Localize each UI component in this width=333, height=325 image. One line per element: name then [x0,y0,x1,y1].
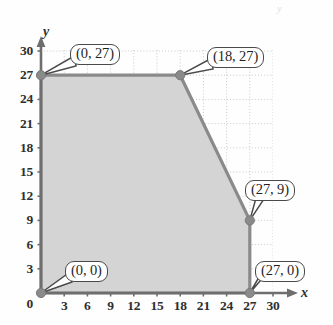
y-tick-label-21: 21 [0,116,33,132]
y-tick-label-0: 0 [0,296,33,312]
x-tick-label-6: 6 [84,298,91,314]
x-tick-label-9: 9 [107,298,114,314]
x-tick-label-24: 24 [220,298,233,314]
y-tick-label-27: 27 [0,67,33,83]
x-tick-label-27: 27 [243,298,256,314]
vertex-callout-27-9[interactable]: (27, 9) [245,180,295,201]
vertex-dot-27-0 [245,288,254,297]
x-tick-label-3: 3 [61,298,68,314]
y-tick-label-6: 6 [0,237,33,253]
x-tick-label-15: 15 [150,298,163,314]
x-axis-name: x [301,285,308,301]
x-tick-label-18: 18 [174,298,187,314]
y-tick-label-24: 24 [0,91,33,107]
y-tick-label-15: 15 [0,164,33,180]
y-tick-label-3: 3 [0,261,33,277]
vertex-dot-18-27 [176,71,185,80]
y-axis-name: y [43,24,49,40]
x-tick-label-12: 12 [127,298,140,314]
coordinate-plane-figure: 30 27 24 21 18 15 12 9 6 3 0 3 6 9 12 15… [0,0,333,325]
vertex-dot-27-9 [245,216,254,225]
y-tick-label-12: 12 [0,188,33,204]
scan-artifact-mark: y [277,2,282,14]
y-tick-label-9: 9 [0,212,33,228]
vertex-dot-0-27 [36,71,45,80]
x-tick-label-21: 21 [197,298,210,314]
x-axis-arrow-icon [287,289,298,298]
vertex-callout-18-27[interactable]: (18, 27) [207,47,264,68]
x-tick-label-30: 30 [266,298,279,314]
y-tick-label-18: 18 [0,140,33,156]
vertex-callout-0-27[interactable]: (0, 27) [70,44,120,65]
y-tick-label-30: 30 [0,43,33,59]
vertex-callout-27-0[interactable]: (27, 0) [255,261,305,282]
vertex-callout-0-0[interactable]: (0, 0) [65,261,108,282]
vertex-dot-0-0 [36,288,45,297]
